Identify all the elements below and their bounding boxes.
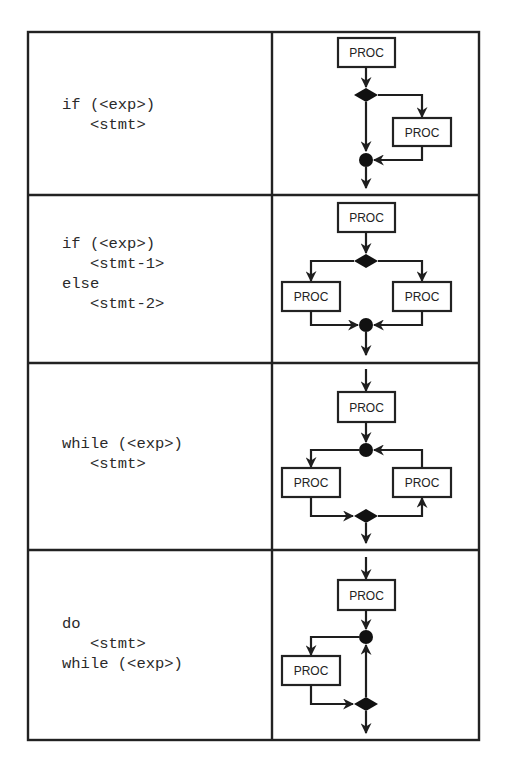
flowchart-if-else: PROC PROC PROC [282,203,451,355]
arrow [311,637,359,655]
proc-label: PROC [349,401,384,415]
merge-circle-icon [359,443,373,457]
arrow [374,450,422,468]
merge-circle-icon [359,630,373,644]
row-if-else: if (<exp>) <stmt-1> else <stmt-2> PROC P… [62,203,451,355]
arrow [311,497,353,516]
flowchart-while: PROC PROC PROC [282,369,451,543]
code-do-while: do <stmt> while (<exp>) [62,615,183,673]
code-line: while (<exp>) [62,655,183,673]
arrow [374,311,422,325]
arrow [311,261,354,281]
code-line: <stmt> [62,455,146,473]
flowchart-do-while: PROC PROC [282,557,395,733]
code-line: <stmt-2> [62,295,164,313]
proc-label: PROC [294,664,329,678]
code-line: do [62,615,81,633]
code-line: if (<exp>) [62,96,155,114]
arrow [378,95,422,117]
code-line: <stmt-1> [62,255,164,273]
proc-label: PROC [349,46,384,60]
code-line: <stmt> [62,635,146,653]
code-if-else: if (<exp>) <stmt-1> else <stmt-2> [62,235,164,313]
arrow [311,450,359,467]
arrow [311,685,353,704]
merge-circle-icon [359,153,373,167]
proc-label: PROC [405,476,440,490]
code-line: while (<exp>) [62,435,183,453]
row-do-while: do <stmt> while (<exp>) PROC PROC [62,557,395,733]
arrow [378,498,422,516]
arrow [374,146,422,160]
proc-label: PROC [349,211,384,225]
code-line: <stmt> [62,116,146,134]
decision-diamond-icon [354,254,378,268]
arrow [311,311,358,325]
merge-circle-icon [359,318,373,332]
code-if: if (<exp>) <stmt> [62,96,155,134]
proc-label: PROC [349,589,384,603]
decision-diamond-icon [354,88,378,102]
proc-label: PROC [294,476,329,490]
code-line: if (<exp>) [62,235,155,253]
flowchart-if: PROC PROC [338,38,451,188]
decision-diamond-icon [354,697,378,711]
proc-label: PROC [405,290,440,304]
row-while: while (<exp>) <stmt> PROC PROC PROC [62,369,451,543]
proc-label: PROC [405,126,440,140]
code-while: while (<exp>) <stmt> [62,435,183,473]
proc-label: PROC [294,290,329,304]
code-line: else [62,275,99,293]
row-if: if (<exp>) <stmt> PROC PROC [62,38,451,188]
decision-diamond-icon [354,509,378,523]
control-structure-flowchart-table: if (<exp>) <stmt> PROC PROC if (<exp>) <… [0,0,507,765]
arrow [378,261,422,281]
